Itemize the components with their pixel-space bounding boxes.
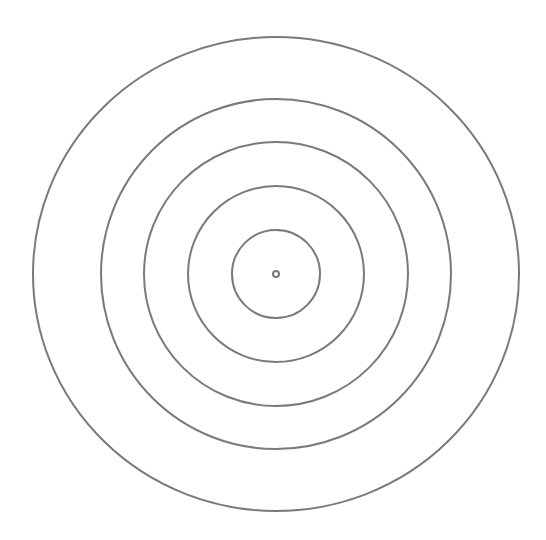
ring-5 — [33, 37, 519, 511]
ring-2 — [188, 186, 364, 362]
ring-1 — [232, 230, 320, 318]
center-dot — [273, 271, 279, 277]
ring-3 — [144, 142, 408, 406]
ring-4 — [101, 99, 451, 449]
concentric-circles-diagram — [0, 0, 546, 540]
